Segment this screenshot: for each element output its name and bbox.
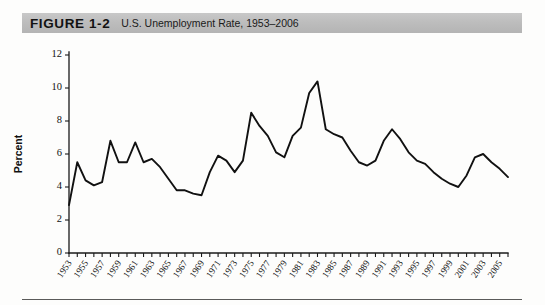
unemployment-rate-series [69,81,508,205]
x-axis-tick-label: 1961 [121,258,140,279]
x-axis-tick-label: 1963 [138,258,157,279]
unemployment-line-chart: 024681012Percent195319551957195919611963… [0,36,545,298]
x-axis-tick-label: 1975 [237,258,256,279]
x-axis-tick-label: 1977 [254,258,273,279]
x-axis-tick-label: 1973 [221,258,240,279]
x-axis-tick-label: 1965 [154,258,173,279]
x-axis-tick-label: 1995 [403,258,422,279]
y-axis-tick-label: 10 [52,81,63,92]
figure-number-label: FIGURE 1-2 [30,16,110,31]
figure-title-bar: FIGURE 1-2 U.S. Unemployment Rate, 1953–… [22,13,522,33]
x-axis-tick-label: 2003 [469,258,488,279]
x-axis-tick-label: 1991 [370,258,389,279]
figure-container: FIGURE 1-2 U.S. Unemployment Rate, 1953–… [0,0,545,305]
x-axis-tick-label: 1957 [88,258,107,279]
x-axis-tick-label: 1997 [419,258,438,279]
x-axis-tick-label: 2001 [453,258,472,279]
x-axis-tick-label: 1959 [105,258,124,279]
x-axis-tick-label: 1969 [187,258,206,279]
y-axis-tick-label: 4 [57,180,63,191]
y-axis-tick-label: 2 [57,213,62,224]
x-axis-tick-label: 1955 [72,258,91,279]
x-axis-tick-label: 1999 [436,258,455,279]
x-axis-tick-label: 2005 [486,258,505,279]
x-axis-tick-label: 1953 [55,258,74,279]
x-axis-tick-label: 1989 [353,258,372,279]
x-axis-tick-label: 1979 [270,258,289,279]
x-axis-tick-label: 1993 [386,258,405,279]
y-axis-tick-label: 12 [52,48,63,59]
y-axis-tick-label: 8 [57,114,62,125]
figure-bottom-rule [22,299,522,300]
x-axis-tick-label: 1971 [204,258,223,279]
x-axis-tick-label: 1987 [337,258,356,279]
x-axis-tick-label: 1985 [320,258,339,279]
figure-caption: U.S. Unemployment Rate, 1953–2006 [121,17,298,29]
x-axis-tick-label: 1981 [287,258,306,279]
y-axis-title: Percent [12,134,24,173]
x-axis-tick-label: 1967 [171,258,190,279]
x-axis-tick-label: 1983 [303,258,322,279]
y-axis-tick-label: 0 [57,246,62,257]
chart-plot-area: 024681012Percent195319551957195919611963… [0,36,545,298]
y-axis-tick-label: 6 [57,147,62,158]
